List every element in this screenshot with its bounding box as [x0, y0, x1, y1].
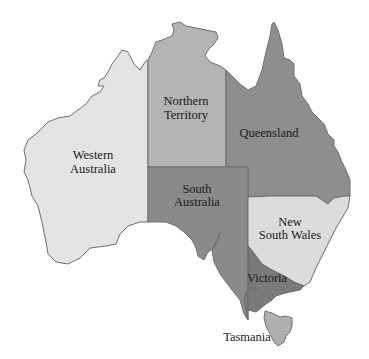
australia-map: Western Australia Northern Territory Que… [0, 0, 369, 359]
label-victoria: Victoria [247, 271, 288, 285]
label-western-australia-line2: Australia [70, 162, 116, 176]
label-tasmania: Tasmania [223, 330, 271, 344]
label-south-australia: South [182, 182, 212, 196]
label-western-australia: Western [73, 148, 114, 162]
label-northern-territory-line2: Territory [164, 108, 209, 122]
label-northern-territory: Northern [163, 94, 209, 108]
label-south-australia-line2: Australia [174, 195, 220, 209]
label-new-south-wales-line2: South Wales [259, 228, 321, 242]
label-queensland: Queensland [239, 126, 299, 140]
label-new-south-wales: New [278, 215, 302, 229]
